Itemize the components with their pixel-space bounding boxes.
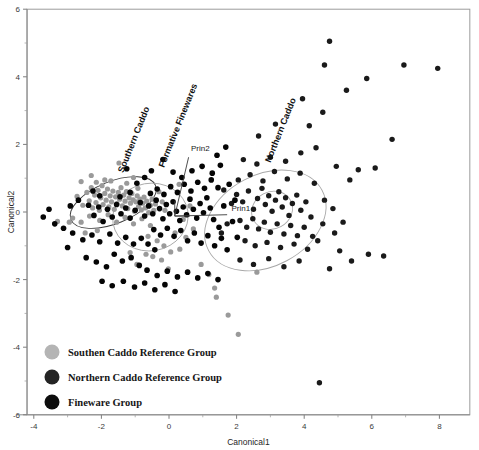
- x-tick-label: 4: [302, 422, 307, 431]
- scatter-point: [150, 211, 156, 217]
- scatter-point: [334, 164, 339, 169]
- scatter-point: [70, 215, 75, 220]
- scatter-point: [340, 219, 345, 224]
- scatter-point: [109, 199, 114, 204]
- scatter-point: [288, 223, 293, 228]
- scatter-point: [202, 186, 208, 192]
- scatter-point: [146, 203, 152, 209]
- scatter-point: [165, 268, 171, 274]
- scatter-point: [322, 62, 327, 67]
- scatter-point: [274, 221, 279, 226]
- y-tick-label: -4: [13, 343, 21, 352]
- legend-marker: [45, 370, 60, 385]
- scatter-point: [145, 241, 151, 247]
- scatter-point: [84, 190, 89, 195]
- scatter-point: [128, 255, 134, 261]
- legend-label: Northern Caddo Reference Group: [68, 372, 222, 383]
- scatter-point: [46, 207, 52, 213]
- scatter-point: [102, 177, 107, 182]
- scatter-point: [136, 263, 142, 269]
- scatter-point: [110, 188, 115, 193]
- scatter-point: [242, 238, 247, 243]
- scatter-point: [105, 207, 111, 213]
- scatter-point: [226, 181, 232, 187]
- x-tick-label: -4: [30, 422, 38, 431]
- scatter-point: [127, 190, 133, 196]
- scatter-point: [138, 236, 144, 242]
- scatter-point: [124, 181, 129, 186]
- scatter-point: [298, 208, 303, 213]
- scatter-point: [263, 202, 268, 207]
- scatter-point: [305, 246, 310, 251]
- scatter-point: [122, 215, 127, 220]
- scatter-point: [313, 145, 318, 150]
- scatter-point: [272, 169, 277, 174]
- scatter-point: [226, 312, 231, 317]
- scatter-point: [94, 180, 99, 185]
- scatter-point: [234, 192, 239, 197]
- scatter-point: [281, 231, 286, 236]
- scatter-point: [224, 247, 230, 253]
- scatter-point: [143, 252, 148, 257]
- scatter-point: [95, 188, 100, 193]
- scatter-point: [131, 221, 136, 226]
- chart-annotation: Prin1: [232, 204, 251, 213]
- scatter-point: [112, 207, 117, 212]
- scatter-point: [251, 262, 256, 267]
- scatter-point: [95, 228, 100, 233]
- scatter-point: [212, 285, 217, 290]
- scatter-point: [219, 230, 224, 235]
- scatter-point: [262, 219, 267, 224]
- scatter-point: [211, 217, 217, 223]
- scatter-point: [205, 233, 211, 239]
- scatter-point: [332, 230, 337, 235]
- scatter-point: [115, 240, 121, 246]
- scatter-point: [145, 234, 150, 239]
- scatter-point: [298, 150, 303, 155]
- scatter-point: [204, 195, 210, 201]
- scatter-point: [250, 216, 255, 221]
- scatter-point: [266, 193, 271, 198]
- scatter-point: [236, 332, 241, 337]
- scatter-point: [99, 183, 104, 188]
- scatter-point: [142, 280, 148, 286]
- scatter-point: [216, 224, 222, 230]
- scatter-point: [76, 197, 82, 203]
- scatter-point: [164, 202, 170, 208]
- scatter-point: [118, 185, 123, 190]
- y-axis-title: Canonical2: [6, 190, 16, 233]
- scatter-point: [80, 203, 85, 208]
- scatter-point: [142, 175, 148, 181]
- scatter-point: [180, 204, 186, 210]
- scatter-point: [327, 39, 332, 44]
- scatter-point: [154, 273, 160, 279]
- scatter-point: [118, 211, 124, 217]
- scatter-point: [178, 228, 184, 234]
- scatter-point: [273, 197, 278, 202]
- scatter-point: [162, 282, 168, 288]
- x-tick-label: 2: [234, 422, 239, 431]
- scatter-point: [177, 182, 182, 187]
- scatter-point: [401, 62, 406, 67]
- scatter-point: [302, 225, 307, 230]
- scatter-point: [241, 157, 246, 162]
- scatter-point: [83, 255, 89, 261]
- scatter-point: [344, 88, 349, 93]
- scatter-point: [260, 178, 265, 183]
- scatter-point: [327, 266, 332, 271]
- scatter-point: [219, 236, 225, 242]
- scatter-point: [121, 278, 127, 284]
- scatter-point: [266, 256, 271, 261]
- scatter-point: [52, 221, 58, 227]
- scatter-point: [152, 247, 158, 253]
- scatter-point: [153, 197, 159, 203]
- scatter-point: [132, 208, 138, 214]
- x-tick-label: 6: [370, 422, 375, 431]
- scatter-point: [123, 205, 129, 211]
- scatter-point: [254, 270, 259, 275]
- scatter-point: [294, 192, 299, 197]
- scatter-point: [278, 245, 283, 250]
- scatter-point: [109, 283, 115, 289]
- plot-svg: -4-202468 -6-4-20246 Southern CaddoForma…: [0, 0, 479, 450]
- scatter-point: [144, 199, 149, 204]
